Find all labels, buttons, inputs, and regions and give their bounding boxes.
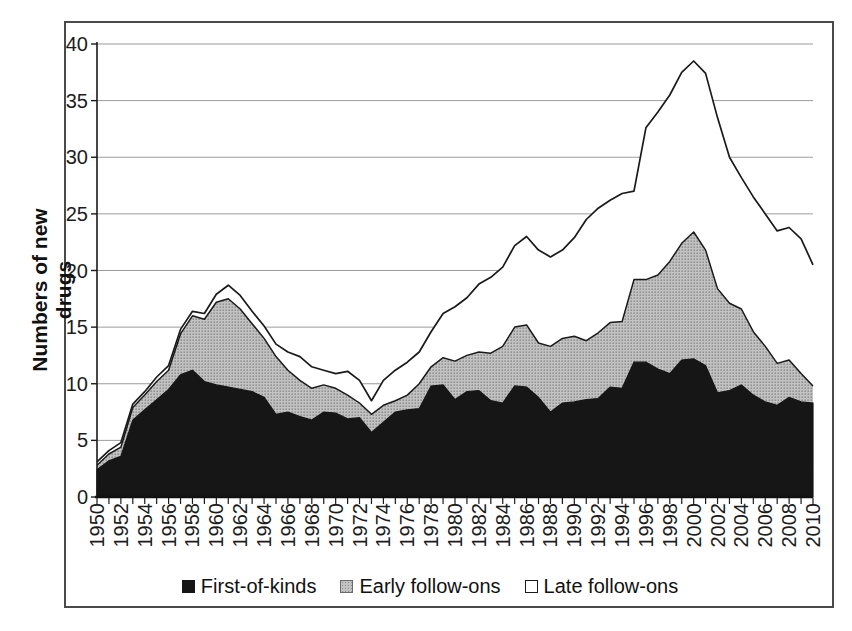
legend-label: Late follow-ons <box>544 575 679 598</box>
chart-legend: First-of-kindsEarly follow-onsLate follo… <box>80 572 780 600</box>
legend-label: Early follow-ons <box>359 575 500 598</box>
x-tick-label-1964: 1964 <box>252 503 276 548</box>
x-tick-label-1970: 1970 <box>324 503 348 548</box>
x-tick-label-1990: 1990 <box>562 503 586 548</box>
x-tick-label-1998: 1998 <box>658 503 682 548</box>
legend-item-first: First-of-kinds <box>182 575 317 598</box>
x-tick-label-1988: 1988 <box>538 503 562 548</box>
x-tick-label-2008: 2008 <box>777 503 801 548</box>
x-tick-label-2002: 2002 <box>706 503 730 548</box>
y-tick-label-35: 35 <box>52 91 88 111</box>
x-tick-label-1976: 1976 <box>395 503 419 548</box>
x-tick-label-2000: 2000 <box>682 503 706 548</box>
y-tick-label-20: 20 <box>52 261 88 281</box>
x-tick-label-2004: 2004 <box>729 503 753 548</box>
x-tick-label-1974: 1974 <box>371 503 395 548</box>
figure: Numbers of new drugs 4035302520151050 19… <box>0 0 852 631</box>
early-swatch-icon <box>340 580 353 593</box>
y-tick-label-10: 10 <box>52 374 88 394</box>
legend-item-early: Early follow-ons <box>340 575 500 598</box>
x-tick-label-1956: 1956 <box>157 503 181 548</box>
x-tick-label-1986: 1986 <box>515 503 539 548</box>
y-tick-label-25: 25 <box>52 204 88 224</box>
y-tick-label-5: 5 <box>52 430 88 450</box>
x-tick-label-1962: 1962 <box>228 503 252 548</box>
x-tick-label-1960: 1960 <box>204 503 228 548</box>
y-tick-label-15: 15 <box>52 317 88 337</box>
x-tick-label-1972: 1972 <box>348 503 372 548</box>
x-tick-label-1982: 1982 <box>467 503 491 548</box>
legend-label: First-of-kinds <box>201 575 317 598</box>
stacked-areas <box>97 61 813 497</box>
x-tick-label-1984: 1984 <box>491 503 515 548</box>
x-tick-label-1968: 1968 <box>300 503 324 548</box>
x-tick-label-2006: 2006 <box>753 503 777 548</box>
x-tick-label-1992: 1992 <box>586 503 610 548</box>
x-tick-label-1966: 1966 <box>276 503 300 548</box>
x-tick-label-1980: 1980 <box>443 503 467 548</box>
x-tick-label-1978: 1978 <box>419 503 443 548</box>
x-tick-label-1958: 1958 <box>180 503 204 548</box>
late-swatch-icon <box>525 580 538 593</box>
x-tick-label-1954: 1954 <box>133 503 157 548</box>
y-tick-label-40: 40 <box>52 34 88 54</box>
x-tick-label-1950: 1950 <box>85 503 109 548</box>
first-swatch-icon <box>182 580 195 593</box>
y-tick-label-30: 30 <box>52 147 88 167</box>
legend-item-late: Late follow-ons <box>525 575 679 598</box>
x-tick-label-2010: 2010 <box>801 503 825 548</box>
y-tick-label-0: 0 <box>52 487 88 507</box>
x-tick-label-1994: 1994 <box>610 503 634 548</box>
x-tick-label-1952: 1952 <box>109 503 133 548</box>
y-axis-title: Numbers of new drugs <box>28 178 52 402</box>
x-tick-label-1996: 1996 <box>634 503 658 548</box>
